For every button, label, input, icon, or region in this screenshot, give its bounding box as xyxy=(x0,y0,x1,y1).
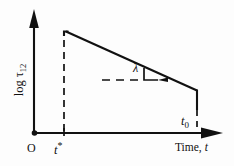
y-axis-label-subscript: 12 xyxy=(18,64,28,73)
slope-wedge-tip xyxy=(158,78,168,83)
x-axis-arrowhead xyxy=(201,127,223,138)
t-star-label: t* xyxy=(54,141,62,156)
x-axis-label-text: Time, xyxy=(175,141,205,153)
figure-panel: log τ12 O t* t0 Time, t λ xyxy=(0,0,234,166)
y-axis-label: log τ12 xyxy=(12,64,27,97)
decay-branch-line xyxy=(66,32,197,91)
x-axis-label: Time, t xyxy=(175,142,208,154)
origin-label: O xyxy=(27,142,36,154)
t-zero-subscript: 0 xyxy=(184,120,189,130)
x-axis-label-variable: t xyxy=(205,141,208,153)
origin-dot xyxy=(32,130,38,136)
y-axis-arrowhead xyxy=(29,9,39,28)
t-zero-label: t0 xyxy=(181,115,189,130)
slope-angle-label: λ xyxy=(133,62,138,74)
t-star-superscript: * xyxy=(57,140,62,151)
y-axis-label-symbol: τ xyxy=(12,72,26,77)
y-axis-label-container: log τ12 xyxy=(8,42,32,118)
y-axis-label-prefix: log xyxy=(12,77,26,96)
